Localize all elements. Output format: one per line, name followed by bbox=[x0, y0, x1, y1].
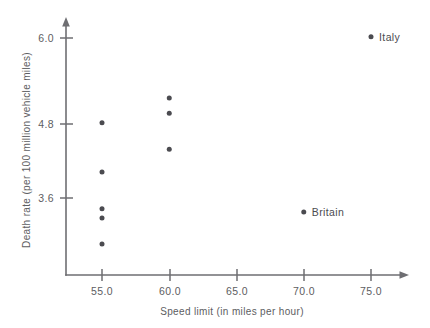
x-axis-ticks: 55.0 60.0 65.0 70.0 75.0 bbox=[91, 269, 382, 297]
data-point bbox=[167, 96, 172, 101]
x-tick-label: 75.0 bbox=[360, 285, 382, 297]
y-tick-label: 3.6 bbox=[38, 192, 54, 204]
x-tick-label: 70.0 bbox=[293, 285, 315, 297]
data-points-layer: BritainItaly bbox=[100, 31, 401, 247]
scatter-plot-figure: 6.0 4.8 3.6 55.0 60.0 65.0 70.0 75.0 Spe… bbox=[0, 0, 430, 328]
axes-group bbox=[62, 17, 409, 279]
x-tick-label: 55.0 bbox=[91, 285, 113, 297]
y-axis-ticks: 6.0 4.8 3.6 bbox=[38, 32, 73, 204]
data-point bbox=[100, 206, 105, 211]
y-axis-arrow-icon bbox=[62, 17, 70, 27]
x-axis-title: Speed limit (in miles per hour) bbox=[160, 306, 304, 317]
y-tick-label: 4.8 bbox=[38, 118, 54, 130]
data-point bbox=[167, 111, 172, 116]
x-axis-arrow-icon bbox=[400, 271, 410, 279]
data-point bbox=[100, 120, 105, 125]
x-tick-label: 60.0 bbox=[159, 285, 181, 297]
x-tick-label: 65.0 bbox=[226, 285, 248, 297]
data-point bbox=[100, 242, 105, 247]
data-point-label: Italy bbox=[379, 31, 401, 43]
data-point bbox=[100, 170, 105, 175]
data-point bbox=[369, 34, 374, 39]
data-point bbox=[301, 210, 306, 215]
y-tick-label: 6.0 bbox=[38, 32, 54, 44]
data-point bbox=[167, 147, 172, 152]
y-axis-title: Death rate (per 100 million vehicle mile… bbox=[21, 52, 32, 248]
data-point-label: Britain bbox=[312, 206, 345, 218]
chart-canvas: 6.0 4.8 3.6 55.0 60.0 65.0 70.0 75.0 Spe… bbox=[0, 0, 430, 328]
data-point bbox=[100, 216, 105, 221]
